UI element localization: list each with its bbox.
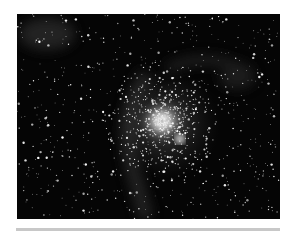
star-field (17, 14, 280, 219)
star-cluster-photo (17, 14, 280, 219)
bottom-divider (16, 228, 280, 231)
